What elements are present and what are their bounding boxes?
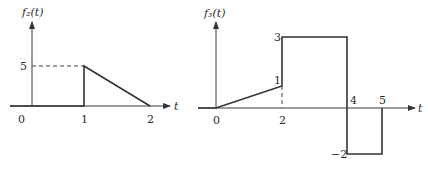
f2-xtick-2: 2 — [147, 113, 154, 126]
f3-xtick-4: 4 — [350, 94, 357, 107]
f3-ytick-1: 1 — [274, 74, 281, 87]
f2-x-axis-label: t — [174, 100, 179, 113]
plot-f3: f₃(t) t 3 1 −2 0 2 4 5 — [198, 7, 423, 161]
plot-f2: f₂(t) t 5 0 1 2 — [10, 6, 179, 126]
f3-ytick-3: 3 — [274, 31, 281, 44]
f2-xtick-0: 0 — [18, 113, 25, 126]
f3-x-axis-label: t — [418, 102, 423, 115]
f2-xtick-1: 1 — [81, 113, 88, 126]
f2-signal — [10, 66, 150, 106]
f3-y-axis-label: f₃(t) — [203, 7, 225, 20]
f3-xtick-2: 2 — [279, 114, 286, 127]
f2-y-axis-label: f₂(t) — [21, 6, 43, 19]
f2-ytick-5: 5 — [20, 60, 27, 73]
signal-diagrams: f₂(t) t 5 0 1 2 f₃(t) t 3 1 −2 0 2 4 5 — [0, 0, 428, 169]
f3-xtick-5: 5 — [379, 94, 386, 107]
f3-xtick-0: 0 — [213, 114, 220, 127]
f3-ytick-neg2: −2 — [331, 148, 347, 161]
